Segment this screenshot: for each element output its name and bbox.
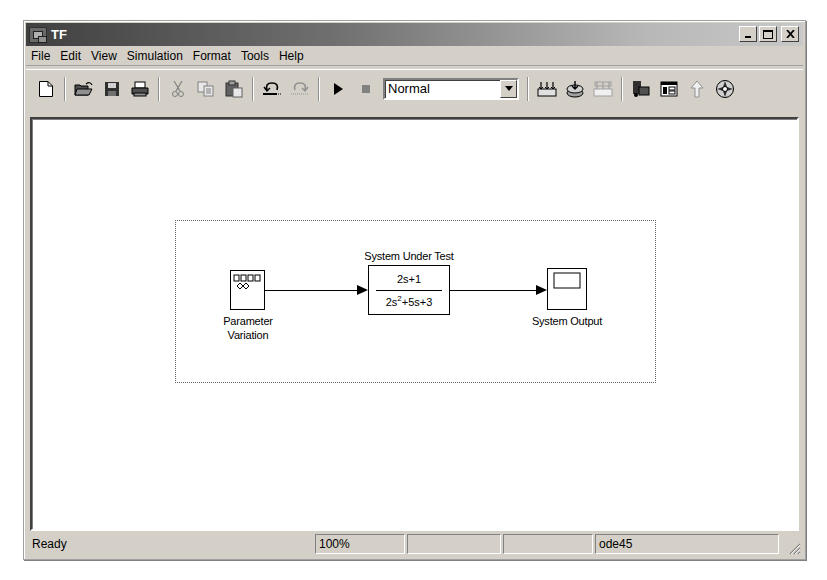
menu-help[interactable]: Help [274,49,309,63]
simulation-mode-value: Normal [388,81,430,96]
build-icon [537,81,557,97]
window-title: TF [51,27,67,42]
close-button[interactable] [781,26,799,42]
save-model-button[interactable] [101,78,123,100]
menu-view[interactable]: View [86,49,122,63]
build-subsystem-icon [593,81,613,97]
printer-icon [130,81,150,97]
build-subsystem-button[interactable] [592,78,614,100]
play-icon [332,82,344,96]
scope-icon [548,269,586,309]
tf-numerator: 2s+1 [369,273,449,285]
toolbar-separator [252,77,254,101]
redo-button[interactable] [289,78,311,100]
signal-line[interactable] [265,290,358,291]
tf-fraction-bar [376,290,442,291]
simulation-mode-select[interactable]: Normal [383,78,519,100]
library-browser-button[interactable] [630,78,652,100]
status-field-4 [503,534,593,554]
copy-icon [197,81,215,97]
up-arrow-icon [690,80,704,98]
parameter-variation-label-line2: Variation [212,329,284,341]
simulation-mode-dropdown-button[interactable] [500,80,517,98]
update-diagram-button[interactable] [564,78,586,100]
parameter-variation-icon [231,271,264,309]
status-text: Ready [28,534,313,554]
minimize-button[interactable] [739,26,757,42]
tf-denominator-base: 2s [386,296,398,308]
menu-format[interactable]: Format [188,49,236,63]
stop-simulation-button[interactable] [355,78,377,100]
status-bar: Ready 100% ode45 [26,533,803,557]
resize-grip-icon[interactable] [787,541,801,555]
signal-line[interactable] [450,290,537,291]
arrow-head-icon [357,285,368,295]
minimize-icon [744,30,752,38]
transfer-function-block[interactable]: 2s+1 2s2+5s+3 [368,265,450,315]
toolbar-separator [621,77,623,101]
title-bar[interactable]: TF [26,23,803,46]
redo-icon [289,81,311,97]
library-browser-icon [631,80,651,98]
system-under-test-label: System Under Test [338,250,480,262]
menu-bar: File Edit View Simulation Format Tools H… [26,47,803,66]
solver-name: ode45 [595,534,779,554]
print-model-button[interactable] [129,78,151,100]
stop-icon [361,84,371,94]
copy-button[interactable] [195,78,217,100]
parameter-variation-label-line1: Parameter [212,315,284,327]
build-all-button[interactable] [536,78,558,100]
undo-icon [261,81,283,97]
scissors-icon [171,80,185,98]
menu-tools[interactable]: Tools [236,49,274,63]
toolbar-separator [158,77,160,101]
go-to-parent-button[interactable] [686,78,708,100]
toolbar-separator [64,77,66,101]
menu-simulation[interactable]: Simulation [122,49,188,63]
maximize-button[interactable] [759,26,777,42]
new-model-button[interactable] [35,78,57,100]
tf-denominator-rest: +5s+3 [402,296,433,308]
system-output-scope-block[interactable] [547,268,587,310]
start-simulation-button[interactable] [327,78,349,100]
window-controls [739,26,799,42]
debug-icon [715,79,735,99]
open-folder-icon [74,81,94,97]
maximize-icon [763,30,773,39]
new-document-icon [38,80,54,98]
parameter-variation-block[interactable] [230,270,265,310]
floppy-disk-icon [104,81,120,97]
update-diagram-icon [565,80,585,98]
status-field-3 [407,534,501,554]
toolbar-separator [527,77,529,101]
debug-button[interactable] [714,78,736,100]
open-model-button[interactable] [73,78,95,100]
simulink-app-icon[interactable] [29,27,47,43]
model-explorer-icon [660,81,678,97]
undo-button[interactable] [261,78,283,100]
tf-denominator: 2s2+5s+3 [369,294,449,308]
model-explorer-button[interactable] [658,78,680,100]
zoom-level: 100% [315,534,405,554]
toolbar-separator [318,77,320,101]
menu-file[interactable]: File [26,49,55,63]
toolbar: Normal [26,69,803,107]
paste-button[interactable] [223,78,245,100]
paste-icon [225,80,243,98]
menu-edit[interactable]: Edit [55,49,86,63]
chevron-down-icon [505,86,513,91]
cut-button[interactable] [167,78,189,100]
arrow-head-icon [536,285,547,295]
close-icon [786,30,795,38]
system-output-label: System Output [510,315,624,327]
